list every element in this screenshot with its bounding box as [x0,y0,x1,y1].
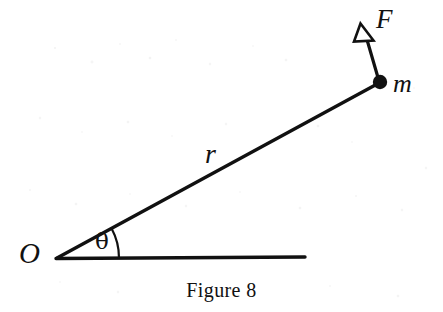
force-vector-arrowhead-icon [354,24,374,42]
figure-container: O θ r m F Figure 8 [0,0,443,312]
figure-caption: Figure 8 [0,279,443,302]
torque-diagram-canvas [0,0,443,312]
horizontal-reference-line [56,257,305,259]
mass-point-dot [373,75,387,89]
mass-label: m [393,71,412,97]
origin-label: O [19,239,40,268]
force-vector-shaft [367,38,380,81]
radius-label: r [205,140,216,168]
angle-label: θ [95,230,109,253]
force-label: F [376,6,393,33]
angle-arc [112,229,119,259]
